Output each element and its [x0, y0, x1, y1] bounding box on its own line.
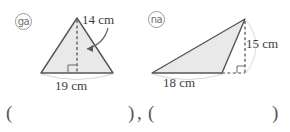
figure-marker-ga: ga — [15, 13, 32, 30]
answer-row: ( ) , ( ) — [0, 100, 290, 132]
answer-paren-close-2: ) — [272, 102, 278, 124]
answer-paren-close-1: ) — [128, 102, 134, 124]
answer-paren-open-1: ( — [6, 102, 12, 124]
base-label-ga: 19 cm — [55, 78, 87, 94]
base-label-na: 18 cm — [163, 75, 195, 91]
answer-separator: , — [137, 102, 142, 124]
figure-marker-na: na — [148, 11, 165, 28]
height-label-na: 15 cm — [246, 36, 278, 52]
height-label-ga: 14 cm — [82, 12, 114, 28]
figure-na-group — [152, 19, 256, 80]
triangle-na — [152, 19, 245, 73]
right-angle-marker-na — [237, 66, 245, 73]
worksheet-figure-page: ga na 14 cm 19 cm 15 cm 18 cm ( ) , ( ) — [0, 0, 290, 132]
answer-paren-open-2: ( — [148, 102, 154, 124]
